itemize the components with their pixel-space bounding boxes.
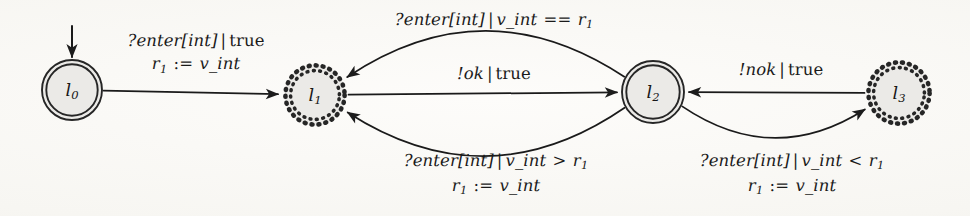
label-token: v_int [500, 176, 541, 195]
label-token: v_int [802, 151, 843, 170]
label-token: 1 [877, 159, 884, 172]
label-token: | [218, 31, 230, 50]
transition-edge-l1-to-l2[interactable] [349, 92, 618, 94]
label-token: | [484, 64, 496, 83]
label-token: | [776, 60, 788, 79]
transition-edge-l0-to-l1[interactable] [104, 91, 279, 95]
label-token: ?enter[int] [395, 10, 485, 29]
state-node-l3[interactable] [867, 61, 931, 125]
state-machine-figure: ?enter[int]|truer1 := v_int?enter[int]|v… [0, 0, 970, 216]
node-fill-l2 [623, 62, 683, 122]
transition-label-line: ?enter[int]|v_int < r1 [700, 149, 884, 174]
label-token: 1 [160, 63, 167, 76]
label-token: v_int [796, 176, 837, 195]
label-token: 1 [586, 18, 593, 31]
transition-label-line: !nok|true [739, 58, 824, 81]
label-token: 1 [581, 159, 588, 172]
label-token: true [496, 64, 531, 83]
transition-edge-l2-to-l3[interactable] [682, 106, 865, 138]
transition-label-line: ?enter[int]|true [127, 29, 264, 52]
label-token: ?enter[int] [700, 151, 790, 170]
label-token: | [494, 151, 506, 170]
label-token: true [788, 60, 823, 79]
node-fill-l0 [43, 61, 101, 119]
label-token: r [452, 176, 460, 195]
transition-label-line: ?enter[int]|v_int == r1 [395, 8, 593, 33]
transition-label-line: r1 := v_int [404, 174, 588, 199]
label-token: := [467, 176, 499, 195]
state-node-l0[interactable] [42, 60, 102, 120]
state-node-l2[interactable] [622, 61, 684, 123]
label-token: v_int [506, 151, 547, 170]
transition-label-line: r1 := v_int [700, 174, 884, 199]
transition-label-t3: ?enter[int]|v_int > r1r1 := v_int [404, 149, 588, 199]
transition-label-line: ?enter[int]|v_int > r1 [404, 149, 588, 174]
label-token: ?enter[int] [404, 151, 494, 170]
label-token: == [537, 10, 578, 29]
transition-label-line: r1 := v_int [127, 52, 264, 77]
label-token: | [485, 10, 497, 29]
state-node-l1[interactable] [284, 64, 346, 126]
transition-edge-l3-to-l2[interactable] [689, 92, 865, 93]
label-token: v_int [200, 54, 241, 73]
label-token: < [842, 151, 869, 170]
label-token: ?enter[int] [127, 31, 217, 50]
label-token: v_int [497, 10, 538, 29]
label-token: > [546, 151, 573, 170]
transition-label-t0: ?enter[int]|truer1 := v_int [127, 29, 264, 77]
label-token: !nok [739, 60, 777, 79]
transition-label-t5: ?enter[int]|v_int < r1r1 := v_int [700, 149, 884, 199]
transition-label-t1: ?enter[int]|v_int == r1 [395, 8, 593, 33]
label-token: r [573, 151, 581, 170]
label-token: true [229, 31, 264, 50]
label-token: r [869, 151, 877, 170]
transition-label-t2: !ok|true [457, 62, 531, 85]
label-token: r [578, 10, 586, 29]
transition-label-line: !ok|true [457, 62, 531, 85]
label-token: !ok [457, 64, 484, 83]
label-token: := [167, 54, 199, 73]
label-token: := [763, 176, 795, 195]
transition-label-t4: !nok|true [739, 58, 824, 81]
label-token: r [748, 176, 756, 195]
label-token: | [790, 151, 802, 170]
